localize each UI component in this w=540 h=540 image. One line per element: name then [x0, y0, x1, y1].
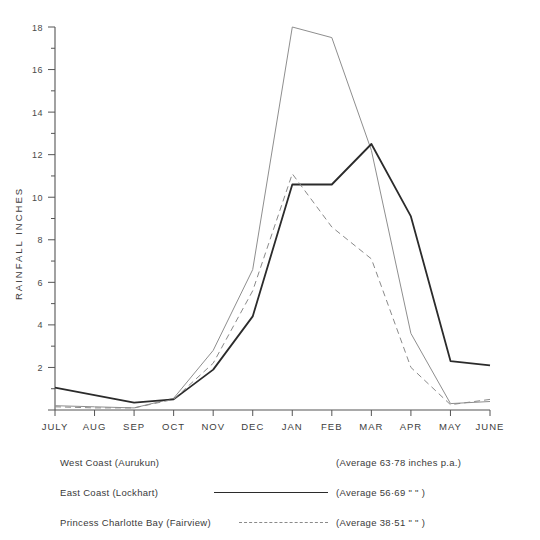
- y-tick-label: 2: [37, 363, 43, 373]
- legend-line-sample: [235, 516, 330, 528]
- x-tick-label-aug: AUG: [83, 421, 107, 432]
- y-tick-label: 16: [32, 65, 43, 75]
- y-tick-label: 14: [32, 108, 43, 118]
- x-tick-label-dec: DEC: [241, 421, 264, 432]
- legend-average-label: (Average 63·78 inches p.a.): [336, 457, 461, 468]
- y-axis-title: RAINFALL INCHES: [13, 187, 24, 300]
- series-lines: [55, 27, 490, 408]
- x-tick-label-apr: APR: [400, 421, 423, 432]
- chart-svg: 24681012141618 JULYAUGSEPOCTNOVDECJANFEB…: [0, 0, 540, 445]
- x-tick-label-feb: FEB: [321, 421, 342, 432]
- y-tick-label: 12: [32, 150, 43, 160]
- legend-series-name: East Coast (Lockhart): [60, 487, 210, 498]
- legend-row: West Coast (Aurukun)(Average 63·78 inche…: [60, 447, 490, 477]
- x-tick-label-july: JULY: [42, 421, 69, 432]
- x-tick-label-sep: SEP: [123, 421, 145, 432]
- x-tick-label-june: JUNE: [476, 421, 505, 432]
- x-tick-label-may: MAY: [439, 421, 462, 432]
- x-axis: JULYAUGSEPOCTNOVDECJANFEBMARAPRMAYJUNE: [42, 410, 505, 432]
- legend-line-sample: [210, 456, 330, 468]
- x-tick-label-jan: JAN: [282, 421, 303, 432]
- x-tick-label-mar: MAR: [359, 421, 383, 432]
- legend-series-name: West Coast (Aurukun): [60, 457, 210, 468]
- series-line-east-coast-lockhart: [55, 144, 490, 403]
- legend-line-sample: [210, 486, 330, 498]
- legend-series-name: Princess Charlotte Bay (Fairview): [60, 517, 235, 528]
- legend-row: East Coast (Lockhart)(Average 56·69 " " …: [60, 477, 490, 507]
- y-tick-label: 10: [32, 193, 43, 203]
- series-line-west-coast-aurukun: [55, 27, 490, 408]
- legend-average-label: (Average 56·69 " " ): [336, 487, 425, 498]
- series-line-princess-charlotte-bay-fairview: [55, 174, 490, 408]
- y-axis: 24681012141618: [32, 23, 55, 411]
- x-tick-label-nov: NOV: [201, 421, 225, 432]
- y-tick-label: 18: [32, 23, 43, 33]
- y-tick-label: 8: [37, 235, 43, 245]
- y-tick-label: 4: [37, 320, 43, 330]
- legend-row: Princess Charlotte Bay (Fairview)(Averag…: [60, 507, 490, 537]
- y-tick-label: 6: [37, 278, 43, 288]
- legend-average-label: (Average 38·51 " " ): [336, 517, 425, 528]
- x-tick-label-oct: OCT: [162, 421, 185, 432]
- chart-legend: West Coast (Aurukun)(Average 63·78 inche…: [60, 447, 490, 537]
